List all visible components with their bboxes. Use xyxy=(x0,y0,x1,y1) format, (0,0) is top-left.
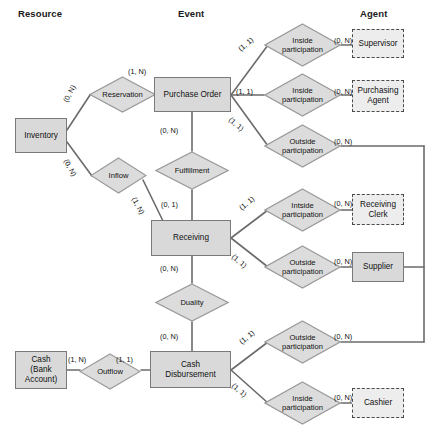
relationship-rcv-inside-clerk[interactable]: Intsideparticipation xyxy=(264,188,341,232)
cardinality-receiving-duality: (0, N) xyxy=(160,265,178,272)
cardinality-po-to-outside: (1, 1) xyxy=(227,116,245,133)
cardinality-reservation-po: (1, N) xyxy=(128,68,146,75)
relationship-duality[interactable]: Duality xyxy=(155,283,229,322)
entity-cash-disbursement[interactable]: CashDisbursement xyxy=(150,351,231,388)
cardinality-rcv-to-outside: (1, 1) xyxy=(230,253,248,270)
cardinality-inv-inflow: (0, N) xyxy=(63,158,78,178)
entity-label: ReceivingClerk xyxy=(354,200,402,220)
entity-purchase-order[interactable]: Purchase Order xyxy=(154,77,231,112)
relationship-po-inside-agent[interactable]: Insideparticipation xyxy=(264,73,341,117)
relationship-label: Insideparticipation xyxy=(264,86,341,104)
entity-purchasing-agent[interactable]: PurchasingAgent xyxy=(352,80,404,112)
cardinality-inv-reservation: (0, N) xyxy=(62,84,77,104)
entity-supervisor[interactable]: Supervisor xyxy=(352,29,404,58)
relationship-reservation[interactable]: Reservation xyxy=(89,76,156,113)
entity-cash[interactable]: Cash(BankAccount) xyxy=(15,351,67,389)
cardinality-po-to-inside-sup: (1, 1) xyxy=(237,36,255,53)
entity-label: CashDisbursement xyxy=(152,360,229,380)
relationship-cd-inside-cashier[interactable]: Insideparticipation xyxy=(264,381,341,425)
entity-inventory[interactable]: Inventory xyxy=(15,118,67,153)
entity-receiving[interactable]: Receiving xyxy=(151,220,231,256)
entity-label: PurchasingAgent xyxy=(354,86,402,106)
entity-receiving-clerk[interactable]: ReceivingClerk xyxy=(352,194,404,225)
relationship-po-outside[interactable]: Outsideparticipation xyxy=(264,124,341,168)
entity-label: Supervisor xyxy=(354,39,402,49)
column-header-agent: Agent xyxy=(360,8,387,19)
cardinality-outflow-cd: (1, 1) xyxy=(116,356,133,363)
relationship-label: Insideparticipation xyxy=(264,394,341,412)
entity-supplier[interactable]: Supplier xyxy=(352,252,404,282)
entity-label: Cashier xyxy=(354,398,402,408)
relationship-fulfillment[interactable]: Fulfillment xyxy=(155,151,229,190)
cardinality-cd-to-outside: (1, 1) xyxy=(238,329,256,346)
er-diagram-canvas: ResourceEventAgent ReservationInflowOutf… xyxy=(0,0,436,429)
column-header-resource: Resource xyxy=(18,8,62,19)
entity-cashier[interactable]: Cashier xyxy=(352,388,404,418)
connector-cd-to-d6 xyxy=(231,342,268,370)
cardinality-po-fulfillment: (0, N) xyxy=(160,127,178,134)
relationship-cd-outside[interactable]: Outsideparticipation xyxy=(264,320,341,364)
connector-rcv-to-d4 xyxy=(231,210,268,238)
relationship-label: Insideparticipation xyxy=(264,36,341,54)
cardinality-fulfillment-receiving: (0, 1) xyxy=(161,201,178,208)
relationship-label: Intsideparticipation xyxy=(264,201,341,219)
cardinality-cash-outflow: (1, N) xyxy=(68,356,86,363)
entity-label: Receiving xyxy=(153,233,229,243)
relationship-label: Fulfillment xyxy=(155,166,229,175)
entity-label: Purchase Order xyxy=(156,90,229,100)
relationship-label: Outflow xyxy=(79,367,141,376)
cardinality-po-to-inside-agent: (1, 1) xyxy=(236,88,253,95)
entity-label: Supplier xyxy=(354,262,402,272)
relationship-label: Duality xyxy=(155,298,229,307)
relationship-label: Outsideparticipation xyxy=(264,258,341,276)
entity-label: Inventory xyxy=(17,131,65,141)
column-header-event: Event xyxy=(178,8,204,19)
cardinality-rcv-to-inside: (1, 1) xyxy=(238,195,256,212)
relationship-label: Inflow xyxy=(90,171,147,180)
relationship-rcv-outside-supplier[interactable]: Outsideparticipation xyxy=(264,245,341,289)
cardinality-inflow-receiving: (1, N) xyxy=(131,196,146,216)
cardinality-duality-cd: (0, N) xyxy=(160,333,178,340)
relationship-label: Reservation xyxy=(89,90,156,99)
cardinality-cd-to-inside: (1, 1) xyxy=(230,382,248,399)
relationship-po-inside-supervisor[interactable]: Insideparticipation xyxy=(264,23,341,67)
relationship-label: Outsideparticipation xyxy=(264,333,341,351)
relationship-label: Outsideparticipation xyxy=(264,137,341,155)
relationship-inflow[interactable]: Inflow xyxy=(90,157,147,194)
entity-label: Cash(BankAccount) xyxy=(17,355,65,385)
